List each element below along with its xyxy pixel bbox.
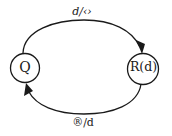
edge-q-to-r: [23, 20, 140, 53]
node-r-label: R(d): [128, 61, 159, 74]
edge-q-to-r-label: d/‹›: [70, 6, 94, 17]
edge-r-to-q: [29, 84, 141, 114]
node-q-label: Q: [11, 60, 39, 74]
arrowhead-q-to-r-icon: [136, 40, 145, 54]
arrowhead-r-to-q-icon: [24, 83, 33, 96]
edge-r-to-q-label: ®/d: [70, 117, 96, 128]
